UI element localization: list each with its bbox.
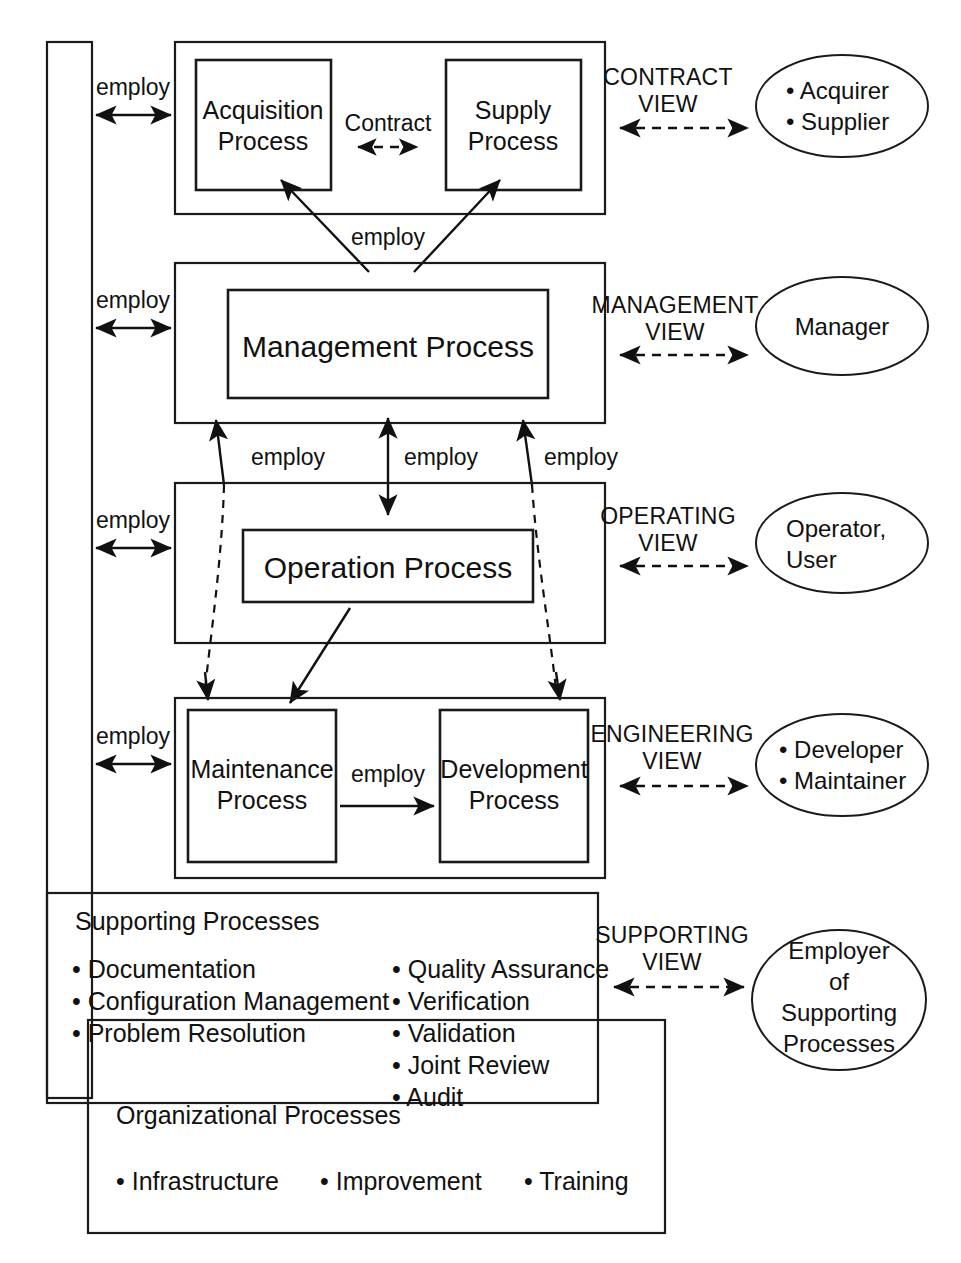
acquisition-process-box (196, 60, 331, 190)
operating-actor-line1: Operator, (786, 515, 886, 542)
management-view-label-line1: MANAGEMENT (592, 292, 759, 318)
management-actor-label: Manager (795, 313, 890, 340)
contract-actor-ellipse (756, 55, 928, 157)
employ-arrow-right-to-management (523, 420, 532, 485)
supporting-actor-line2: of (829, 968, 849, 995)
supporting-right-item-2: • Validation (392, 1019, 516, 1047)
supporting-left-item-0: • Documentation (72, 955, 256, 983)
employ-label-engineering: employ (96, 723, 171, 749)
layer-management: Management Process employ MANAGEMENT VIE… (96, 263, 928, 423)
layer-organizational: Organizational Processes • Infrastructur… (88, 1020, 665, 1233)
employ-label-contract-management: employ (351, 224, 426, 250)
supply-process-box (446, 60, 581, 190)
supporting-actor-line4: Processes (783, 1030, 895, 1057)
acquisition-process-label-line2: Process (218, 127, 308, 155)
supporting-processes-heading: Supporting Processes (75, 907, 320, 935)
supporting-left-item-2: • Problem Resolution (72, 1019, 306, 1047)
organizational-item-2: • Training (524, 1167, 629, 1195)
contract-actor-line2: • Supplier (786, 108, 889, 135)
contract-actor-line1: • Acquirer (786, 77, 889, 104)
supporting-right-item-4: • Audit (392, 1083, 463, 1111)
process-views-diagram: Acquisition Process Supply Process Contr… (0, 0, 961, 1263)
operating-actor-ellipse (756, 493, 928, 593)
acquisition-process-label-line1: Acquisition (203, 96, 324, 124)
engineering-actor-line1: • Developer (779, 736, 903, 763)
supporting-left-item-1: • Configuration Management (72, 987, 389, 1015)
management-view-label-line2: VIEW (645, 319, 705, 345)
engineering-actor-ellipse (756, 714, 928, 816)
organizational-item-1: • Improvement (320, 1167, 482, 1195)
employ-arrow-operation-to-maintenance (290, 608, 350, 703)
employ-dashed-left-from-engineering (205, 485, 224, 690)
employ-arrow-to-supply (414, 180, 500, 272)
engineering-actor-line2: • Maintainer (779, 767, 906, 794)
organizational-processes-heading: Organizational Processes (116, 1101, 401, 1129)
employ-label-operating: employ (96, 507, 171, 533)
layer-supporting: Supporting Processes • Documentation • C… (47, 893, 926, 1111)
engineering-view-label-line2: VIEW (642, 748, 702, 774)
layer-operating: Operation Process employ OPERATING VIEW … (96, 483, 928, 643)
layer-engineering: Maintenance Process Development Process … (96, 698, 928, 878)
layer-contract: Acquisition Process Supply Process Contr… (96, 42, 928, 214)
operating-actor-line2: User (786, 546, 837, 573)
supply-process-label-line2: Process (468, 127, 558, 155)
engineering-view-label-line1: ENGINEERING (590, 721, 753, 747)
maintenance-process-label-line1: Maintenance (190, 755, 333, 783)
supply-process-label-line1: Supply (475, 96, 552, 124)
management-process-label: Management Process (242, 330, 534, 363)
operating-view-label-line2: VIEW (638, 530, 698, 556)
employ-arrowhead-left-into-engineering (205, 672, 208, 700)
employ-dashed-right-from-engineering (532, 485, 556, 690)
employ-label-maintenance-development: employ (351, 761, 426, 787)
contract-view-label-line2: VIEW (638, 91, 698, 117)
employer-organization-bar (47, 42, 92, 1098)
supporting-right-item-3: • Joint Review (392, 1051, 550, 1079)
operating-view-label-line1: OPERATING (600, 503, 736, 529)
employ-arrow-left-to-management (216, 420, 224, 485)
development-process-label-line1: Development (440, 755, 587, 783)
development-process-label-line2: Process (469, 786, 559, 814)
diagram-canvas: Acquisition Process Supply Process Contr… (0, 0, 961, 1263)
employ-label-contract: employ (96, 74, 171, 100)
employ-label-middle-management: employ (404, 444, 479, 470)
supporting-actor-line3: Supporting (781, 999, 897, 1026)
supporting-view-label-line2: VIEW (642, 949, 702, 975)
supporting-right-item-0: • Quality Assurance (392, 955, 609, 983)
organizational-item-0: • Infrastructure (116, 1167, 279, 1195)
supporting-actor-line1: Employer (788, 937, 889, 964)
contract-view-label-line1: CONTRACT (603, 64, 732, 90)
employ-label-right-management: employ (544, 444, 619, 470)
employ-label-management: employ (96, 287, 171, 313)
supporting-view-label-line1: SUPPORTING (595, 922, 749, 948)
contract-relation-label: Contract (345, 110, 433, 136)
employ-crossing-arrows-contract-management: employ (281, 180, 500, 272)
supporting-right-item-1: • Verification (392, 987, 530, 1015)
employ-label-left-management: employ (251, 444, 326, 470)
maintenance-process-label-line2: Process (217, 786, 307, 814)
operation-process-label: Operation Process (264, 551, 512, 584)
